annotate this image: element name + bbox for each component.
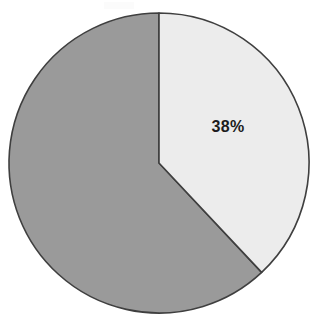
pie-chart-figure: 38% [0,0,318,331]
pie-chart-canvas: 38% [0,0,318,331]
pie-slice-label-segment-a: 38% [212,118,245,135]
